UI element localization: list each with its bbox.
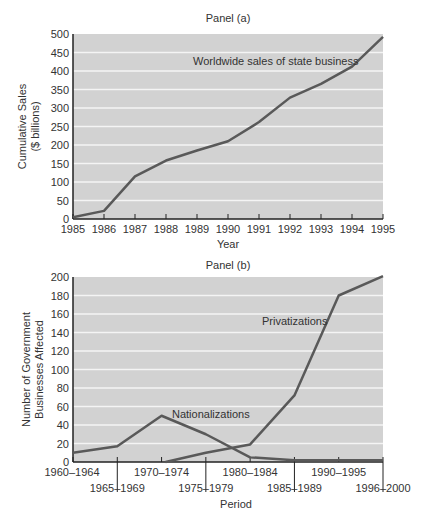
x-axis-title: Period <box>220 498 252 510</box>
y-tick-label: 500 <box>51 28 69 40</box>
x-tick-label: 1988 <box>154 223 178 235</box>
x-tick-label: 1985–1989 <box>267 482 322 494</box>
x-tick-label: 1990 <box>216 223 240 235</box>
y-tick-label: 400 <box>51 65 69 77</box>
x-tick-label: 1991 <box>247 223 271 235</box>
panel-a-title: Panel (a) <box>206 12 251 24</box>
y-tick-label: 200 <box>51 271 69 283</box>
y-axis-title: Cumulative Sales($ billions) <box>16 83 41 169</box>
y-tick-label: 50 <box>57 195 69 207</box>
x-tick-label: 1992 <box>278 223 302 235</box>
y-tick-label: 100 <box>51 364 69 376</box>
y-axis-title: Number of GovernmentBusinesses Affected <box>20 312 45 427</box>
y-tick-label: 80 <box>57 382 69 394</box>
x-tick-label: 1989 <box>185 223 209 235</box>
panel-b-title: Panel (b) <box>206 259 251 271</box>
series-annotation: Worldwide sales of state business <box>193 55 359 67</box>
x-tick-label: 1996–2000 <box>355 482 410 494</box>
series-annotation-privatizations: Privatizations <box>262 315 328 327</box>
panel-a: Panel (a)0501001502002503003504004505001… <box>16 12 395 250</box>
x-tick-label: 1970–1974 <box>134 466 189 478</box>
y-tick-label: 180 <box>51 290 69 302</box>
chart-figure: Panel (a)0501001502002503003504004505001… <box>0 0 422 526</box>
y-tick-label: 120 <box>51 345 69 357</box>
y-tick-label: 160 <box>51 308 69 320</box>
series-annotation-nationalizations: Nationalizations <box>172 408 250 420</box>
y-tick-label: 200 <box>51 139 69 151</box>
y-tick-label: 140 <box>51 327 69 339</box>
x-tick-label: 1980–1984 <box>223 466 278 478</box>
x-tick-label: 1994 <box>340 223 364 235</box>
y-tick-label: 150 <box>51 158 69 170</box>
y-tick-label: 250 <box>51 121 69 133</box>
x-tick-label: 1987 <box>123 223 147 235</box>
x-tick-label: 1975–1979 <box>178 482 233 494</box>
x-tick-label: 1995 <box>371 223 395 235</box>
y-tick-label: 60 <box>57 401 69 413</box>
y-tick-label: 20 <box>57 438 69 450</box>
panel-b: Panel (b)0204060801001201401601802001960… <box>20 259 411 510</box>
y-tick-label: 40 <box>57 419 69 431</box>
x-tick-label: 1985 <box>61 223 85 235</box>
x-tick-label: 1986 <box>92 223 116 235</box>
y-tick-label: 450 <box>51 47 69 59</box>
y-tick-label: 350 <box>51 84 69 96</box>
y-tick-label: 100 <box>51 176 69 188</box>
y-tick-label: 300 <box>51 102 69 114</box>
x-axis-title: Year <box>217 238 240 250</box>
x-tick-label: 1990–1995 <box>311 466 366 478</box>
x-tick-label: 1993 <box>309 223 333 235</box>
x-tick-label: 1965–1969 <box>90 482 145 494</box>
x-tick-label: 1960–1964 <box>44 466 99 478</box>
